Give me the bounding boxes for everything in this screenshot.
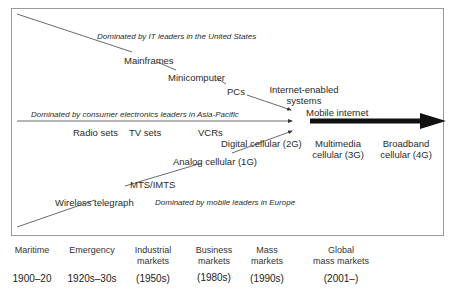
node-mts-imts: MTS/IMTS [130,179,175,190]
era-label: Maritime [15,245,50,255]
node-4g-line2: cellular (4G) [380,149,432,160]
era-label-2: markets [198,256,230,266]
era-label: Industrial [135,245,172,255]
era-label: Mass [256,245,278,255]
era-industrial: Industrial markets [128,245,178,267]
arrow-head-icon [420,113,446,129]
band-label-mobile: Dominated by mobile leaders in Europe [155,197,295,208]
node-analog-cellular: Analog cellular (1G) [173,156,257,167]
node-radio-sets: Radio sets [73,127,118,138]
era-label: Global [328,245,354,255]
node-mobile-internet: Mobile internet [306,107,368,118]
node-3g: Multimedia cellular (3G) [310,138,366,160]
year-mass: (1990s) [245,273,289,284]
era-label-2: markets [137,256,169,266]
node-3g-line2: cellular (3G) [312,149,364,160]
era-label-2: mass markets [313,256,369,266]
era-emergency: Emergency [62,245,122,256]
node-minicomputer: Minicomputer [168,72,225,83]
node-mainframes: Mainframes [124,55,174,66]
year-industrial: (1950s) [128,273,178,284]
era-business: Business markets [189,245,239,267]
year-business: (1980s) [189,272,239,283]
era-label: Business [196,245,233,255]
node-internet-enabled: Internet-enabled systems [264,84,344,106]
year-global: (2001–) [303,273,379,284]
internet-line1: Internet-enabled [269,84,338,95]
node-pcs: PCs [227,86,245,97]
era-label: Emergency [69,245,115,255]
era-mass: Mass markets [245,245,289,267]
node-vcrs: VCRs [198,127,223,138]
band-label-it: Dominated by IT leaders in the United St… [97,31,256,42]
node-4g-line1: Broadband [383,138,429,149]
node-3g-line1: Multimedia [315,138,361,149]
era-label-2: markets [251,256,283,266]
era-maritime: Maritime [6,245,58,256]
era-global: Global mass markets [303,245,379,267]
node-digital-cellular: Digital cellular (2G) [221,138,302,149]
node-tv-sets: TV sets [129,127,161,138]
band-label-consumer: Dominated by consumer electronics leader… [31,109,239,120]
year-maritime: 1900–20 [6,273,58,284]
node-wireless-telegraph: Wireless telegraph [55,197,134,208]
year-emergency: 1920s–30s [62,273,122,284]
internet-line2: systems [287,95,322,106]
node-4g: Broadband cellular (4G) [374,138,438,160]
